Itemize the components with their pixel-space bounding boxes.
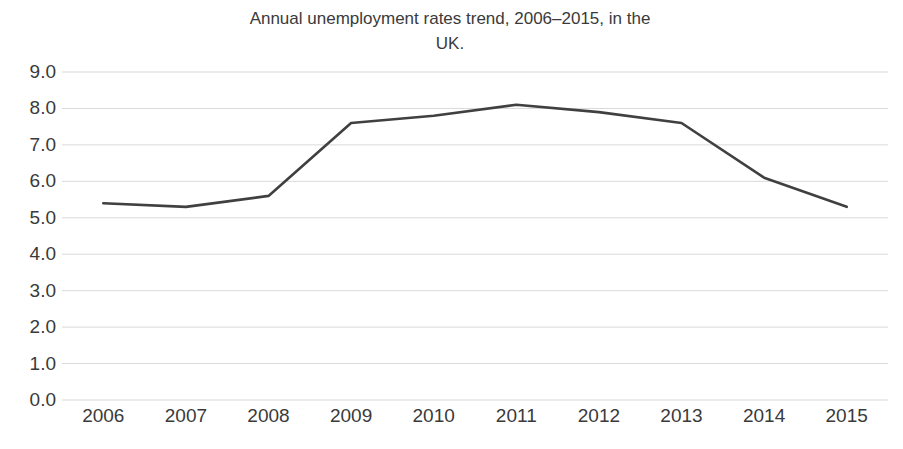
x-axis-tick-label: 2014 bbox=[719, 406, 809, 425]
x-axis-tick-label: 2006 bbox=[58, 406, 148, 425]
x-axis-tick-label: 2008 bbox=[224, 406, 314, 425]
x-axis-tick-label: 2007 bbox=[141, 406, 231, 425]
chart-figure: Annual unemployment rates trend, 2006–20… bbox=[0, 0, 903, 449]
x-axis-tick-label: 2012 bbox=[554, 406, 644, 425]
x-axis-tick-label: 2015 bbox=[802, 406, 892, 425]
x-axis-tick-label: 2009 bbox=[306, 406, 396, 425]
x-axis-tick-labels: 2006200720082009201020112012201320142015 bbox=[0, 0, 903, 449]
x-axis-tick-label: 2013 bbox=[637, 406, 727, 425]
x-axis-tick-label: 2011 bbox=[471, 406, 561, 425]
x-axis-tick-label: 2010 bbox=[389, 406, 479, 425]
plot-area: 9.08.07.06.05.04.03.02.01.00.0 200620072… bbox=[0, 0, 903, 449]
